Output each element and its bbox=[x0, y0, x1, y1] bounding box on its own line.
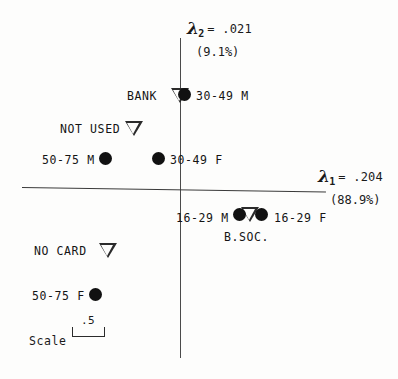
marker-triangle-not-used bbox=[125, 121, 143, 136]
scale-bracket bbox=[72, 327, 105, 337]
vertical-axis-inertia: (9.1%) bbox=[196, 45, 239, 59]
point-label-30-49-f: 30-49 F bbox=[170, 153, 223, 167]
point-label-30-49-m: 30-49 M bbox=[196, 89, 249, 103]
point-label-bank: BANK bbox=[127, 89, 157, 103]
marker-point-50-75-m bbox=[99, 152, 112, 165]
point-label-50-75-f: 50-75 F bbox=[32, 289, 85, 303]
vertical-axis-label: λ2= .021 bbox=[187, 20, 252, 39]
marker-point-50-75-f bbox=[89, 288, 102, 301]
lambda-subscript-vertical: 2 bbox=[198, 28, 204, 39]
point-label-no-card: NO CARD bbox=[34, 244, 87, 258]
point-label-16-29-f: 16-29 F bbox=[274, 211, 327, 225]
marker-point-30-49-f bbox=[152, 152, 165, 165]
point-label-16-29-m: 16-29 M bbox=[176, 211, 229, 225]
correspondence-analysis-plot: λ2= .021 (9.1%) λ1= .204 (88.9%) BANK NO… bbox=[0, 0, 398, 379]
horizontal-axis-line bbox=[22, 187, 326, 193]
point-label-b-soc: B.SOC. bbox=[224, 230, 269, 244]
marker-triangle-no-card bbox=[99, 243, 117, 258]
marker-point-16-29-m bbox=[233, 208, 246, 221]
marker-point-30-49-m bbox=[178, 88, 191, 101]
lambda-subscript-horizontal: 1 bbox=[329, 176, 335, 187]
point-label-not-used: NOT USED bbox=[60, 122, 120, 136]
point-label-50-75-m: 50-75 M bbox=[42, 153, 95, 167]
marker-point-16-29-f bbox=[255, 208, 268, 221]
lambda-value-vertical: = .021 bbox=[207, 22, 252, 36]
scale-label: Scale bbox=[29, 334, 67, 348]
scale-value: .5 bbox=[81, 314, 95, 327]
lambda-value-horizontal: = .204 bbox=[338, 170, 383, 184]
vertical-axis-line bbox=[180, 38, 181, 358]
horizontal-axis-label: λ1= .204 bbox=[318, 168, 383, 187]
horizontal-axis-inertia: (88.9%) bbox=[330, 193, 381, 207]
